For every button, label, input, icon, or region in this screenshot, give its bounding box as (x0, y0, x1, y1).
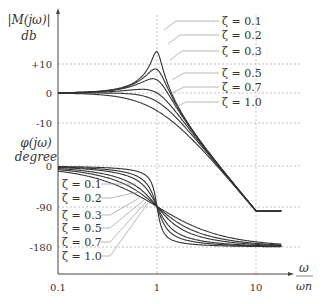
x-tick-0.1: 0.1 (50, 282, 66, 293)
zeta-label: ζ = 0.7 (62, 236, 102, 249)
magnitude-zeta-labels: ζ = 0.1ζ = 0.2ζ = 0.3ζ = 0.5ζ = 0.7ζ = 1… (222, 15, 262, 109)
zeta-label: ζ = 0.2 (62, 192, 102, 205)
zeta-label: ζ = 1.0 (62, 250, 102, 263)
leader-line (172, 87, 219, 93)
zeta-label: ζ = 0.3 (62, 209, 102, 222)
zeta-label: ζ = 0.7 (222, 81, 262, 94)
mag-axis-label: |M(jω)| (7, 13, 50, 27)
leader-line (168, 35, 219, 44)
leader-line (170, 51, 219, 60)
leader-line (101, 192, 139, 198)
phase-zeta-labels: ζ = 0.1ζ = 0.2ζ = 0.3ζ = 0.5ζ = 0.7ζ = 1… (62, 178, 102, 263)
x-tick-10: 10 (250, 282, 263, 293)
mag-tick-minus10: -10 (36, 118, 52, 129)
zeta-label: ζ = 0.5 (62, 222, 102, 235)
leader-line (174, 102, 219, 108)
zeta-label: ζ = 1.0 (222, 96, 262, 109)
bode-plot: |M(jω)| db φ(jω) degree +10 0 -10 0 -90 … (0, 0, 325, 304)
x-axis-label-num: ω (299, 261, 309, 275)
leader-line (164, 21, 219, 30)
leader-line (101, 203, 148, 256)
x-tick-1: 1 (154, 282, 160, 293)
phase-tick-minus90: -90 (36, 202, 52, 213)
x-axis-label-den: ωn (296, 280, 312, 293)
mag-axis-unit: db (21, 29, 36, 43)
mag-tick-0: 0 (46, 88, 52, 99)
mag-tick-plus10: +10 (31, 59, 52, 70)
x-axis-arrow-icon (288, 272, 294, 276)
zeta-label: ζ = 0.3 (222, 45, 262, 58)
zeta-label: ζ = 0.1 (222, 15, 262, 28)
phase-tick-minus180: -180 (30, 242, 52, 253)
phase-tick-0: 0 (46, 161, 52, 172)
leader-line (172, 73, 219, 80)
leader-line (101, 202, 146, 242)
leader-line (101, 200, 144, 228)
y-axis-arrow-icon (56, 8, 60, 14)
zeta-label: ζ = 0.2 (222, 29, 262, 42)
zeta-label: ζ = 0.5 (222, 67, 262, 80)
zeta-label: ζ = 0.1 (62, 178, 102, 191)
leader-line (101, 197, 141, 215)
phase-axis-label: φ(jω) (20, 136, 52, 150)
